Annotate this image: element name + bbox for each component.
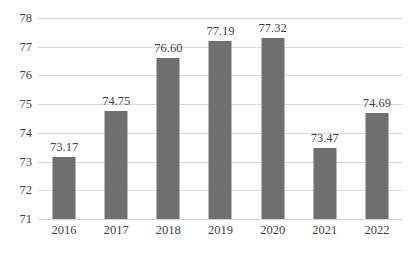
bar-chart: 7877767574737271 73.1774.7576.6077.1977.…	[0, 0, 411, 261]
bar-value-label: 77.19	[206, 25, 234, 38]
bar-value-label: 73.47	[311, 132, 339, 145]
y-axis-tick-label: 71	[20, 213, 33, 226]
y-axis: 7877767574737271	[0, 18, 32, 219]
bar-group: 73.47	[299, 18, 351, 219]
bar-value-label: 73.17	[50, 141, 78, 154]
x-axis-tick-label: 2016	[52, 224, 77, 237]
y-axis-tick-label: 74	[20, 127, 33, 140]
x-axis-tick-label: 2019	[208, 224, 233, 237]
x-axis-tick-label: 2018	[156, 224, 181, 237]
bar[interactable]	[105, 111, 128, 219]
bar-value-label: 77.32	[259, 22, 287, 35]
x-axis-tick-label: 2021	[312, 224, 337, 237]
x-axis-tick-label: 2017	[104, 224, 129, 237]
y-axis-tick-label: 72	[20, 184, 33, 197]
y-axis-tick-label: 75	[20, 98, 33, 111]
bar-value-label: 74.69	[363, 97, 391, 110]
y-axis-tick-label: 76	[20, 69, 33, 82]
y-axis-tick-label: 78	[20, 12, 33, 25]
bar[interactable]	[313, 148, 336, 219]
bar[interactable]	[53, 157, 76, 219]
bar-group: 73.17	[38, 18, 90, 219]
bar[interactable]	[261, 38, 284, 219]
bar-group: 74.75	[90, 18, 142, 219]
bar-value-label: 74.75	[102, 95, 130, 108]
x-axis-tick-label: 2022	[364, 224, 389, 237]
bar[interactable]	[209, 41, 232, 219]
x-axis: 2016201720182019202020212022	[38, 224, 403, 244]
x-axis-tick-label: 2020	[260, 224, 285, 237]
bar-group: 74.69	[351, 18, 403, 219]
bar[interactable]	[157, 58, 180, 219]
gridline	[38, 219, 403, 220]
bar-value-label: 76.60	[154, 42, 182, 55]
y-axis-tick-label: 77	[20, 40, 33, 53]
bars-layer: 73.1774.7576.6077.1977.3273.4774.69	[38, 18, 403, 219]
bar-group: 77.32	[247, 18, 299, 219]
bar-group: 76.60	[142, 18, 194, 219]
bar[interactable]	[365, 113, 388, 219]
bar-group: 77.19	[194, 18, 246, 219]
y-axis-tick-label: 73	[20, 155, 33, 168]
